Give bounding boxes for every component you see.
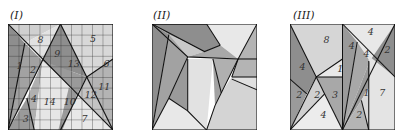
piece-label: 11 [98,81,110,92]
piece-label: 1 [337,63,343,74]
panel-3-figure: 8 4 1 2 2 3 4 4 4 4 2 1 7 2 [290,24,395,130]
piece-label: 2 [295,89,302,100]
piece-label: 2 [355,109,362,120]
piece-label: 4 [30,93,37,104]
piece-label: 6 [104,58,110,69]
piece-label: 12 [85,89,97,100]
piece-label: 9 [54,48,60,59]
panel-3-title: (III) [293,9,315,22]
piece-label: 3 [23,112,29,123]
piece-label: 4 [363,48,370,59]
piece-label: 1 [364,87,370,98]
panel-3-dissection: 8 4 1 2 2 3 4 4 4 4 2 1 7 2 [290,24,395,130]
piece-label: 4 [367,26,374,37]
piece-label: 1 [16,59,22,70]
piece-label: 2 [384,44,391,55]
piece-label: 2 [313,89,320,100]
panel-1-figure: 1 2 3 4 5 6 7 8 9 10 11 12 13 14 [8,24,113,130]
piece-label: 8 [324,34,330,45]
piece-label: 5 [90,33,96,44]
piece-label: 8 [37,34,43,45]
piece-label: 10 [64,96,76,107]
piece-label: 14 [44,96,56,107]
piece-label: 7 [379,87,386,98]
piece-label: 2 [29,64,36,75]
piece-label: 4 [348,40,355,51]
panel-2-title: (II) [153,9,170,22]
piece-label: 4 [319,109,326,120]
panel-2-dissection [152,24,257,130]
panel-2-figure [152,24,257,130]
piece-label: 7 [82,112,89,123]
piece-label: 3 [332,89,338,100]
piece-label: 13 [68,58,80,69]
piece-label: 4 [298,61,305,72]
panel-1-title: (I) [10,9,23,22]
panel-1-tangram-grid: 1 2 3 4 5 6 7 8 9 10 11 12 13 14 [8,24,113,130]
